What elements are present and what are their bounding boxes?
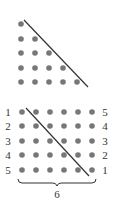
row-label-right: 5 (102, 106, 108, 118)
row-label-right: 4 (102, 120, 108, 132)
dot (32, 79, 38, 85)
triangular-dot-arrangement (18, 21, 80, 85)
row-label-left: 3 (5, 135, 11, 147)
dot (19, 152, 25, 158)
dot (47, 123, 53, 129)
dot (46, 79, 52, 85)
dot (60, 79, 66, 85)
dot (75, 109, 81, 115)
dot (32, 36, 38, 42)
dot (46, 65, 52, 71)
dot (61, 138, 67, 144)
dot (18, 36, 24, 42)
dot (19, 167, 25, 173)
dot (46, 50, 52, 56)
dot (47, 152, 53, 158)
dot (19, 109, 25, 115)
dot (89, 138, 95, 144)
brace-label: 6 (54, 188, 60, 200)
dot (33, 109, 39, 115)
left-row-labels: 12345 (5, 106, 11, 176)
row-label-right: 3 (102, 135, 108, 147)
dot (47, 109, 53, 115)
row-label-left: 2 (5, 120, 11, 132)
row-label-left: 1 (5, 106, 11, 118)
row-label-left: 4 (5, 149, 11, 161)
dot (89, 123, 95, 129)
dot (75, 138, 81, 144)
bottom-brace (18, 179, 96, 186)
right-row-labels: 54321 (102, 106, 108, 176)
dot (19, 123, 25, 129)
dot (89, 152, 95, 158)
dot (47, 167, 53, 173)
dot (47, 138, 53, 144)
dot (74, 79, 80, 85)
dot-triangle-diagram: 12345 54321 6 (0, 0, 117, 216)
dot (33, 152, 39, 158)
dot (18, 79, 24, 85)
dot (18, 65, 24, 71)
dot (75, 123, 81, 129)
dot (75, 152, 81, 158)
dot (61, 123, 67, 129)
dot (19, 138, 25, 144)
dot (32, 50, 38, 56)
dot (18, 21, 24, 27)
dot (32, 65, 38, 71)
dot (60, 65, 66, 71)
dot (89, 167, 95, 173)
dot (33, 167, 39, 173)
dot (61, 167, 67, 173)
dot (18, 50, 24, 56)
row-label-left: 5 (5, 164, 11, 176)
dot (61, 109, 67, 115)
dot (61, 152, 67, 158)
dot (33, 138, 39, 144)
row-label-right: 1 (102, 164, 108, 176)
dot (75, 167, 81, 173)
row-label-right: 2 (102, 149, 108, 161)
dot (33, 123, 39, 129)
dot (89, 109, 95, 115)
